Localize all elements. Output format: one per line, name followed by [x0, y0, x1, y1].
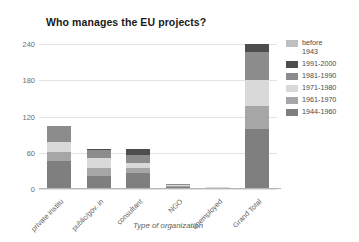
bar-private-institu[interactable] — [47, 126, 71, 189]
legend-item[interactable]: 1991-2000 — [286, 59, 359, 70]
legend-item[interactable]: 1971-1980 — [286, 83, 359, 94]
bar-segment[interactable] — [47, 161, 71, 189]
bar-public-gov-in[interactable] — [87, 149, 111, 189]
chart-title: Who manages the EU projects? — [46, 16, 206, 28]
bar-segment[interactable] — [87, 176, 111, 189]
legend-item[interactable]: before 1943 — [286, 38, 359, 58]
bar-consultant[interactable] — [126, 149, 150, 189]
legend-label: before 1943 — [302, 38, 322, 56]
legend-label: 1944-1960 — [302, 107, 336, 116]
plot-area — [39, 44, 277, 189]
legend-label: 1981-1990 — [302, 71, 336, 80]
gridline — [39, 44, 277, 45]
y-axis-tick-label: 240 — [5, 40, 35, 49]
y-axis-tick-labels: 060120180240 — [0, 44, 35, 189]
gridline — [39, 153, 277, 154]
bar-segment[interactable] — [126, 173, 150, 189]
legend-swatch-icon — [286, 97, 298, 104]
legend-swatch-icon — [286, 61, 298, 68]
chart-container: Who manages the EU projects? 06012018024… — [0, 0, 359, 242]
bar-segment[interactable] — [126, 155, 150, 163]
legend-swatch-icon — [286, 85, 298, 92]
bar-segment[interactable] — [245, 44, 269, 52]
bar-segment[interactable] — [245, 129, 269, 189]
bar-segment[interactable] — [47, 126, 71, 143]
y-axis-tick-label: 120 — [5, 112, 35, 121]
bar-segment[interactable] — [245, 80, 269, 106]
y-axis-tick-label: 180 — [5, 76, 35, 85]
legend-item[interactable]: 1961-1970 — [286, 95, 359, 106]
bar-segment[interactable] — [87, 158, 111, 168]
legend-label: 1971-1980 — [302, 83, 336, 92]
legend-item[interactable]: 1944-1960 — [286, 107, 359, 118]
legend-label: 1961-1970 — [302, 95, 336, 104]
bar-segment[interactable] — [47, 152, 71, 161]
bar-segment[interactable] — [87, 150, 111, 158]
chart-legend: before 19431991-20001981-19901971-198019… — [286, 38, 359, 119]
gridline — [39, 117, 277, 118]
legend-item[interactable]: 1981-1990 — [286, 71, 359, 82]
legend-swatch-icon — [286, 40, 298, 47]
x-axis-tick-label: private institu — [0, 197, 65, 242]
legend-swatch-icon — [286, 109, 298, 116]
y-axis-tick-label: 60 — [5, 148, 35, 157]
bar-grand-total[interactable] — [245, 44, 269, 189]
x-axis-title: Type of organization — [133, 221, 203, 230]
bar-segment[interactable] — [245, 106, 269, 130]
x-axis-tick-labels: private institupublic/gov. inconsultantN… — [0, 189, 359, 242]
legend-label: 1991-2000 — [302, 59, 336, 68]
legend-swatch-icon — [286, 73, 298, 80]
bar-segment[interactable] — [245, 52, 269, 80]
bar-segment[interactable] — [87, 168, 111, 176]
bar-segment[interactable] — [47, 142, 71, 151]
gridline — [39, 80, 277, 81]
